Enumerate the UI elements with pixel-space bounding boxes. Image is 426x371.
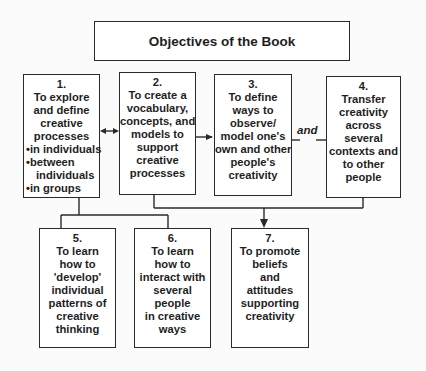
- bullet-item: •in groups: [24, 182, 99, 195]
- objective-number: 5.: [40, 229, 115, 245]
- objective-text: To learn: [135, 245, 210, 258]
- objective-box-3: 3. To define ways to observe/ model one'…: [214, 74, 292, 196]
- objective-text: creative: [24, 117, 99, 130]
- objective-text: To explore: [24, 91, 99, 104]
- objective-text: models to: [120, 128, 195, 141]
- objective-text: in creative: [135, 310, 210, 323]
- arrow-right-icon: [206, 134, 213, 140]
- arrow-left-icon: [100, 128, 106, 134]
- bullet-item: individuals: [24, 169, 99, 182]
- objective-text: ways to: [215, 104, 291, 117]
- objective-text: To learn: [40, 245, 115, 258]
- objective-text: people: [327, 171, 400, 184]
- objective-text: and: [232, 271, 308, 284]
- objective-number: 1.: [24, 75, 99, 91]
- objective-text: people's: [215, 156, 291, 169]
- objective-text: several: [327, 132, 400, 145]
- objective-text: creative: [120, 154, 195, 167]
- objective-text: processes: [120, 167, 195, 180]
- objective-box-5: 5. To learn how to 'develop' individual …: [39, 228, 116, 348]
- objective-text: beliefs: [232, 258, 308, 271]
- objective-number: 7.: [232, 229, 308, 245]
- bullet-item: •between: [24, 156, 99, 169]
- objective-box-2: 2. To create a vocabulary, concepts, and…: [119, 72, 196, 195]
- objective-box-4: 4. Transfer creativity across several co…: [326, 76, 401, 198]
- objective-text: patterns of: [40, 297, 115, 310]
- objective-text: attitudes: [232, 284, 308, 297]
- objective-box-1: 1. To explore and define creative proces…: [23, 74, 100, 198]
- objective-text: observe/: [215, 117, 291, 130]
- objective-text: processes: [24, 130, 99, 143]
- objective-number: 3.: [215, 75, 291, 91]
- objective-box-6: 6. To learn how to interact with several…: [134, 228, 211, 348]
- objective-text: interact with: [135, 271, 210, 284]
- objective-text: creativity: [215, 169, 291, 182]
- bullet-item: •in individuals: [24, 143, 99, 156]
- objective-text: how to: [135, 258, 210, 271]
- objective-text: contexts and: [327, 145, 400, 158]
- objective-text: support: [120, 141, 195, 154]
- objective-text: own and other: [215, 143, 291, 156]
- diagram-title: Objectives of the Book: [94, 21, 350, 61]
- connector-label-and: and: [297, 124, 317, 136]
- objective-text: creative: [40, 310, 115, 323]
- objective-text: thinking: [40, 323, 115, 336]
- objective-text: vocabulary,: [120, 102, 195, 115]
- objective-text: model one's: [215, 130, 291, 143]
- objective-text: across: [327, 119, 400, 132]
- objective-text: people: [135, 297, 210, 310]
- objective-text: concepts, and: [120, 115, 195, 128]
- objective-number: 6.: [135, 229, 210, 245]
- objective-text: individual: [40, 284, 115, 297]
- objective-text: To create a: [120, 89, 195, 102]
- objective-text: to other: [327, 158, 400, 171]
- objective-box-7: 7. To promote beliefs and attitudes supp…: [231, 228, 309, 348]
- objective-text: Transfer: [327, 93, 400, 106]
- objective-text: several: [135, 284, 210, 297]
- objective-text: and define: [24, 104, 99, 117]
- objective-number: 4.: [327, 77, 400, 93]
- objective-text: supporting: [232, 297, 308, 310]
- objective-text: To define: [215, 91, 291, 104]
- objective-text: To promote: [232, 245, 308, 258]
- objective-text: creativity: [232, 310, 308, 323]
- arrow-down-icon: [260, 219, 268, 228]
- objective-text: 'develop': [40, 271, 115, 284]
- objective-text: ways: [135, 323, 210, 336]
- objective-text: how to: [40, 258, 115, 271]
- objective-text: creativity: [327, 106, 400, 119]
- objective-number: 2.: [120, 73, 195, 89]
